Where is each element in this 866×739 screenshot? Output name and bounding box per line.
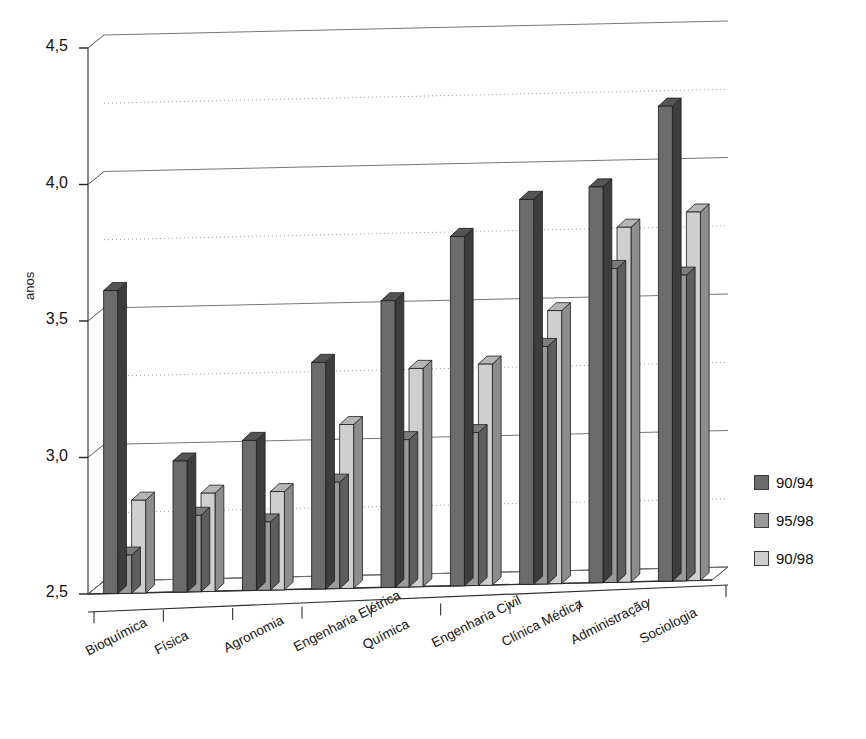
legend-item-90-98[interactable]: 90/98 (754, 550, 854, 566)
y-tick-label: 4,0 (22, 174, 68, 192)
bar-front-face (173, 461, 187, 592)
legend-item-95-98[interactable]: 95/98 (754, 512, 854, 528)
y-tick-label: 3,0 (22, 447, 68, 465)
bar-front-face (242, 440, 256, 590)
bar-side-face (548, 338, 557, 584)
bar-side-face (562, 303, 571, 584)
bar-side-face (256, 432, 265, 590)
legend-label: 90/94 (776, 475, 814, 490)
bar-side-face (215, 485, 224, 591)
bar-3-90-94 (242, 432, 265, 590)
bar-side-face (423, 360, 432, 586)
bar-6-90-94 (450, 228, 473, 586)
bar-8-90-94 (589, 179, 612, 583)
legend-label: 90/98 (776, 551, 814, 566)
bar-side-face (631, 219, 640, 582)
bar-side-face (603, 179, 612, 583)
bar-side-face (118, 283, 127, 594)
bar-front-face (104, 291, 118, 594)
bar-front-face (312, 362, 326, 589)
y-tick-label: 2,5 (22, 583, 68, 601)
legend-label: 95/98 (776, 513, 814, 528)
bar-side-face (464, 228, 473, 586)
bar-side-face (672, 98, 681, 581)
bar-side-face (326, 354, 335, 589)
bar-side-face (354, 416, 363, 588)
gridline-connector (88, 308, 104, 321)
bar-side-face (409, 432, 418, 587)
bar-side-face (340, 474, 349, 589)
bar-2-90-94 (173, 453, 196, 592)
bar-front-face (658, 106, 672, 581)
legend-swatch-icon (754, 475, 769, 490)
bar-front-face (589, 187, 603, 583)
bar-1-90-94 (104, 283, 127, 594)
y-tick-label: 4,5 (22, 37, 68, 55)
bar-front-face (520, 199, 534, 584)
bar-side-face (478, 425, 487, 586)
bar-side-face (534, 191, 543, 584)
bar-side-face (395, 293, 404, 588)
bar-4-90-94 (312, 354, 335, 589)
bar-side-face (284, 484, 293, 590)
gridline-connector (88, 172, 104, 185)
bar-side-face (187, 453, 196, 592)
gridline-major (104, 21, 728, 35)
bar-side-face (270, 514, 279, 590)
bar-side-face (492, 356, 501, 585)
bar-5-90-94 (381, 293, 404, 588)
bar-front-face (450, 236, 464, 585)
legend-swatch-icon (754, 551, 769, 566)
bar-7-90-94 (520, 191, 543, 584)
gridline-major (104, 158, 728, 172)
legend-swatch-icon (754, 513, 769, 528)
gridline-connector (88, 445, 104, 458)
y-tick-label: 3,5 (22, 310, 68, 328)
y-axis-title: anos (22, 272, 37, 300)
chart-legend: 90/9495/9890/98 (754, 474, 854, 588)
chart-container: anos 4,54,03,53,02,5 BioquímicaFísicaAgr… (0, 0, 866, 739)
bar-side-face (700, 204, 709, 581)
bar-side-face (686, 267, 695, 581)
bar-side-face (617, 260, 626, 582)
bar-side-face (201, 507, 210, 592)
bar-side-face (146, 492, 155, 593)
gridline-connector (88, 35, 104, 48)
legend-item-90-94[interactable]: 90/94 (754, 474, 854, 490)
bar-front-face (381, 301, 395, 588)
gridline-minor (104, 89, 728, 103)
bar-9-90-94 (658, 98, 681, 581)
